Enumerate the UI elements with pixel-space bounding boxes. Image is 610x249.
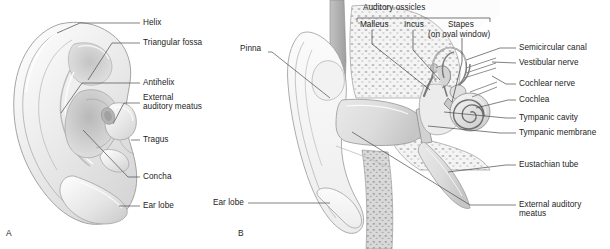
cochlea-shape xyxy=(450,93,490,131)
label-external-auditory-meatus-a-line1: External xyxy=(143,93,173,102)
label-incus: Incus xyxy=(404,20,424,29)
label-external-auditory-meatus-b-line2: meatus xyxy=(519,209,546,218)
label-concha: Concha xyxy=(143,172,172,181)
label-stapes-note: (on oval window) xyxy=(428,30,490,39)
label-pinna: Pinna xyxy=(240,44,261,53)
label-cochlear-nerve: Cochlear nerve xyxy=(519,79,575,88)
label-tympanic-membrane: Tympanic membrane xyxy=(519,128,596,137)
label-antihelix: Antihelix xyxy=(143,78,174,87)
ear-anatomy-figure: Helix Triangular fossa Antihelix Externa… xyxy=(0,0,610,249)
panel-letter-b: B xyxy=(238,228,244,238)
label-helix: Helix xyxy=(143,18,161,27)
label-semicircular-canal: Semicircular canal xyxy=(519,43,587,52)
label-ear-lobe-b: Ear lobe xyxy=(213,198,244,207)
panel-letter-a: A xyxy=(6,228,12,238)
label-eustachian-tube: Eustachian tube xyxy=(519,160,578,169)
label-external-auditory-meatus-a-line2: auditory meatus xyxy=(143,102,202,111)
mastoid-air-cells xyxy=(362,150,393,249)
label-cochlea: Cochlea xyxy=(519,95,549,104)
label-tragus: Tragus xyxy=(143,135,168,144)
label-triangular-fossa: Triangular fossa xyxy=(143,38,202,47)
label-external-auditory-meatus-b-line1: External auditory xyxy=(519,200,581,209)
label-stapes: Stapes xyxy=(448,20,474,29)
label-vestibular-nerve: Vestibular nerve xyxy=(519,58,579,67)
label-auditory-ossicles: Auditory ossicles xyxy=(363,3,425,12)
label-ear-lobe-a: Ear lobe xyxy=(143,201,174,210)
label-tympanic-cavity: Tympanic cavity xyxy=(519,113,578,122)
label-malleus: Malleus xyxy=(360,20,389,29)
